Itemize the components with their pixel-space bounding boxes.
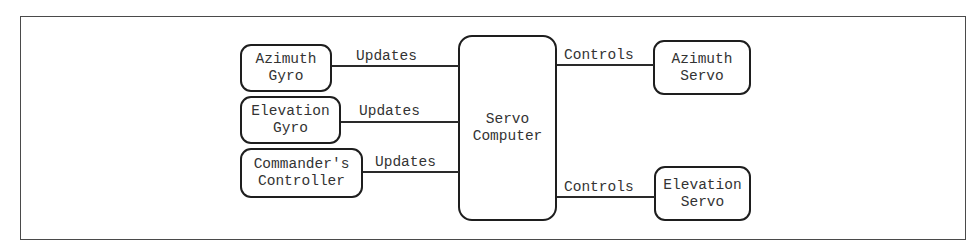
node-label-line2: Gyro	[269, 68, 304, 85]
node-label-line2: Servo	[680, 68, 724, 85]
edge-servo-computer-to-azimuth-servo	[557, 64, 654, 66]
node-label-line1: Elevation	[663, 177, 741, 194]
edge-elevation-gyro-to-servo-computer	[341, 121, 459, 123]
edge-commanders-controller-to-servo-computer	[363, 171, 459, 173]
edge-servo-computer-to-elevation-servo	[557, 196, 655, 198]
edge-label-updates: Updates	[356, 48, 417, 64]
azimuth-gyro-node: Azimuth Gyro	[240, 44, 332, 92]
node-label-line2: Computer	[473, 128, 543, 145]
node-label-line1: Elevation	[251, 103, 329, 120]
edge-azimuth-gyro-to-servo-computer	[332, 65, 459, 67]
node-label-line2: Servo	[681, 194, 725, 211]
elevation-servo-node: Elevation Servo	[654, 166, 751, 221]
elevation-gyro-node: Elevation Gyro	[240, 96, 341, 144]
edge-label-controls: Controls	[564, 47, 634, 63]
edge-label-updates: Updates	[375, 154, 436, 170]
node-label-line1: Servo	[486, 111, 530, 128]
edge-label-controls: Controls	[564, 179, 634, 195]
node-label-line2: Gyro	[273, 120, 308, 137]
servo-computer-node: Servo Computer	[458, 35, 557, 221]
node-label-line1: Azimuth	[256, 51, 317, 68]
node-label-line2: Controller	[258, 173, 345, 190]
node-label-line1: Commander's	[254, 156, 350, 173]
edge-label-updates: Updates	[359, 103, 420, 119]
node-label-line1: Azimuth	[672, 51, 733, 68]
commanders-controller-node: Commander's Controller	[240, 148, 363, 198]
azimuth-servo-node: Azimuth Servo	[653, 40, 751, 95]
